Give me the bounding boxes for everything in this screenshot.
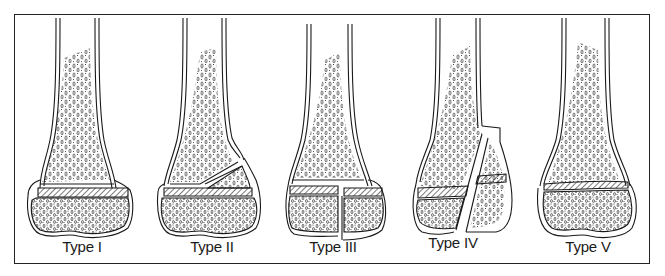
- type-1-label: Type I: [32, 238, 132, 255]
- type-1-bone: [28, 18, 133, 238]
- type-5-bone: [538, 18, 637, 238]
- type-3-bone: [286, 24, 386, 240]
- type-2-label: Type II: [162, 238, 262, 255]
- type-3-label: Type III: [283, 238, 383, 255]
- type-2-bone: [158, 18, 261, 238]
- type-4-bone: [413, 18, 512, 234]
- fracture-diagram: [0, 0, 665, 276]
- type-4-label: Type IV: [403, 234, 503, 251]
- type-5-label: Type V: [538, 238, 638, 255]
